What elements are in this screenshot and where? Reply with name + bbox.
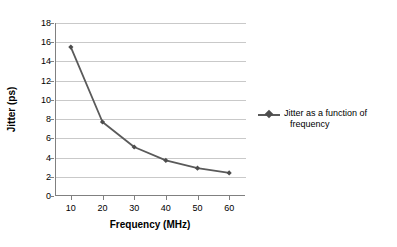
y-axis-tick-mark — [50, 158, 54, 159]
legend-entry-label: Jitter as a function of frequency — [284, 108, 367, 130]
x-axis-tick-mark — [229, 196, 230, 200]
data-series-layer — [55, 23, 245, 196]
y-axis-tick-mark — [50, 81, 54, 82]
legend-label-line-1: Jitter as a function of — [284, 108, 367, 118]
x-axis-tick-label: 50 — [185, 203, 211, 213]
data-point-marker — [68, 44, 73, 49]
x-axis-tick-mark — [71, 196, 72, 200]
y-axis-tick-mark — [50, 119, 54, 120]
y-axis-tick-mark — [50, 138, 54, 139]
x-axis-tick-label: 10 — [58, 203, 84, 213]
x-axis-tick-label: 40 — [153, 203, 179, 213]
x-axis-tick-mark — [198, 196, 199, 200]
legend-diamond-icon — [265, 110, 273, 118]
legend-marker-icon — [258, 109, 280, 120]
x-axis-tick-marks — [55, 196, 245, 202]
y-axis-tick-mark — [50, 100, 54, 101]
x-axis-tick-label: 60 — [216, 203, 242, 213]
x-axis-tick-label: 30 — [121, 203, 147, 213]
y-axis-tick-mark — [50, 61, 54, 62]
data-point-marker — [227, 170, 232, 175]
x-axis-tick-mark — [134, 196, 135, 200]
series-line — [71, 47, 229, 173]
x-axis-tick-mark — [103, 196, 104, 200]
x-axis-tick-label: 20 — [90, 203, 116, 213]
y-axis-tick-mark — [50, 177, 54, 178]
y-axis-tick-mark — [50, 23, 54, 24]
y-axis-tick-marks — [0, 23, 55, 196]
x-axis-tick-labels: 102030405060 — [55, 203, 245, 215]
data-point-marker — [195, 166, 200, 171]
legend-label-line-2: frequency — [284, 119, 367, 130]
data-point-marker — [163, 158, 168, 163]
y-axis-tick-mark — [50, 42, 54, 43]
x-axis-title: Frequency (MHz) — [55, 219, 245, 231]
x-axis-tick-mark — [166, 196, 167, 200]
chart-container: Jitter (ps) 024681012141618 102030405060… — [0, 0, 397, 247]
y-axis-tick-mark — [50, 196, 54, 197]
chart-legend: Jitter as a function of frequency — [258, 108, 394, 130]
